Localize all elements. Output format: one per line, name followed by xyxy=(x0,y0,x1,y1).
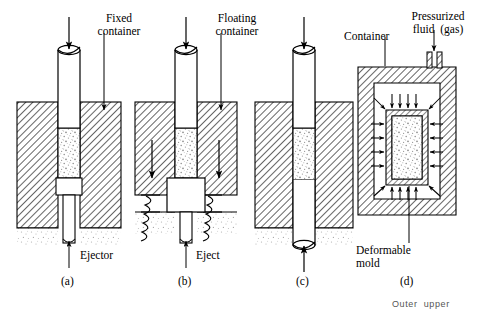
panel-d-fluid-inlet xyxy=(427,52,442,68)
panel-a-ejector-rod xyxy=(63,195,75,243)
label-container: Container xyxy=(344,30,389,43)
panel-d-powder xyxy=(392,116,422,179)
panel-d-pressure-arrows-top xyxy=(392,94,416,108)
panel-b-powder xyxy=(175,128,197,178)
panel-c xyxy=(255,17,353,272)
panel-caption-c: (c) xyxy=(296,275,309,287)
panel-c-powder xyxy=(293,128,315,180)
panel-d-pressure-arrows-bottom xyxy=(392,187,416,200)
label-deformable-mold: Deformable mold xyxy=(356,244,411,269)
panel-a-lower-punch xyxy=(56,178,82,195)
panel-caption-a: (a) xyxy=(61,275,74,287)
panel-b xyxy=(135,17,237,268)
panel-c-upper-punch xyxy=(293,45,315,128)
panel-caption-d: (d) xyxy=(400,275,413,287)
watermark-outer-upper: Outer upper xyxy=(392,299,450,309)
panel-b-lower-punch xyxy=(167,178,205,212)
panel-a xyxy=(17,17,121,268)
panel-b-upper-punch xyxy=(175,45,197,128)
label-ejector: Ejector xyxy=(80,249,113,262)
panel-c-lower-punch xyxy=(293,180,315,250)
panel-a-upper-punch xyxy=(58,45,80,128)
panel-caption-b: (b) xyxy=(178,275,191,287)
panel-a-powder xyxy=(58,128,80,178)
label-fixed-container: Fixed container xyxy=(79,12,159,37)
figure-root: Fixed container Floating container Eject… xyxy=(0,0,479,314)
panel-b-ejector-rod xyxy=(180,212,192,243)
label-floating-container: Floating container xyxy=(196,12,278,37)
label-pressurized-fluid: Pressurized fluid (gas) xyxy=(398,10,478,35)
label-eject: Eject xyxy=(196,249,220,262)
panel-d xyxy=(358,30,456,243)
